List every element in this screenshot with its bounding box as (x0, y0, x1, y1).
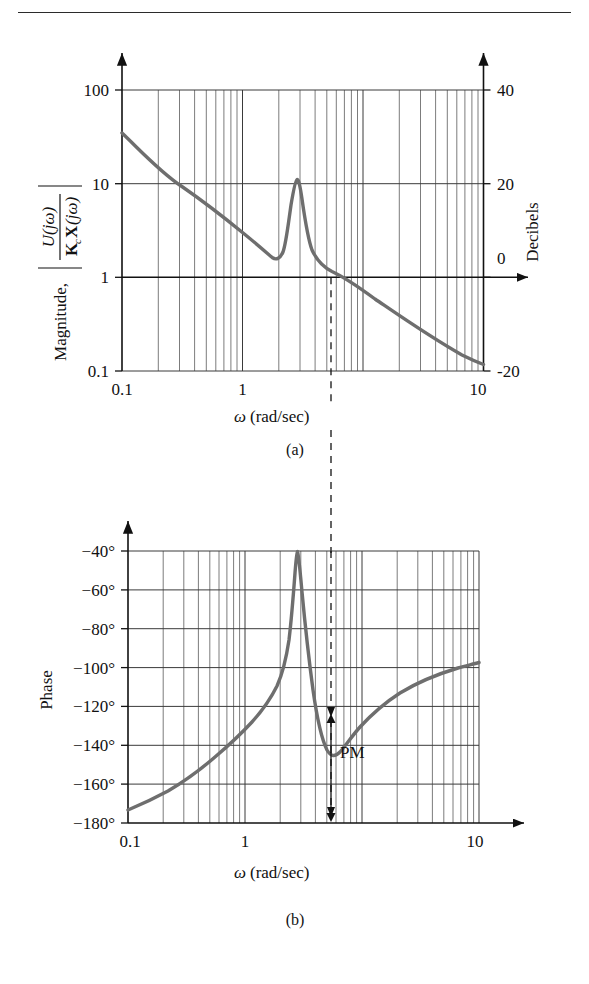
phase-ytick-minus100: −100° (73, 659, 115, 678)
phase-minor-gridlines (163, 551, 473, 823)
magnitude-axis-label-denominator: K c X (jω) (62, 197, 83, 256)
magnitude-plot: 100 10 1 0.1 40 20 0 -20 0.1 1 10 ω (rad… (38, 53, 542, 426)
phase-ytick-minus140: −140° (73, 736, 115, 755)
decibels-ytick-20: 20 (497, 175, 514, 194)
phase-xaxis-label: ω (rad/sec) (234, 863, 309, 882)
phase-axis-label: Phase (37, 670, 56, 710)
phase-ytick-minus80: −80° (82, 620, 115, 639)
decibels-ytick-minus20: -20 (497, 362, 520, 381)
magnitude-xtick-10: 10 (470, 380, 487, 399)
phase-xlabel-omega: ω (234, 863, 246, 882)
magnitude-xlabel-omega: ω (234, 407, 246, 426)
magnitude-axis-label-den-X: X (62, 225, 81, 238)
phase-ytick-minus180: −180° (73, 814, 115, 833)
phase-margin-arrow-up (327, 714, 336, 723)
phase-plot: PM −40° −60° −80° −100° −120° −140° −160… (37, 521, 524, 882)
phase-xtick-1: 1 (241, 832, 250, 851)
phase-margin-arrow-down (327, 813, 336, 822)
decibels-y-ticks (484, 90, 491, 371)
magnitude-decade-gridlines (243, 90, 364, 371)
figure-page: 100 10 1 0.1 40 20 0 -20 0.1 1 10 ω (rad… (0, 0, 589, 984)
magnitude-ytick-10: 10 (92, 175, 109, 194)
magnitude-axis-label-den-rest: (jω) (62, 197, 81, 225)
phase-ytick-minus120: −120° (73, 697, 115, 716)
phase-margin-label: PM (340, 743, 365, 762)
magnitude-axis-label-numerator: U(jω) (39, 207, 58, 248)
magnitude-minor-gridlines (158, 90, 478, 371)
caption-a: (a) (286, 441, 304, 459)
magnitude-ytick-100: 100 (84, 81, 110, 100)
magnitude-xaxis-label: ω (rad/sec) (234, 407, 309, 426)
magnitude-axis-label: Magnitude, U(jω) K c X (jω) (38, 186, 83, 361)
magnitude-axis-label-den-sub: c (71, 239, 83, 244)
phase-horizontal-gridlines (128, 551, 479, 784)
decibels-ytick-40: 40 (497, 81, 514, 100)
magnitude-horizontal-gridlines (122, 90, 484, 371)
phase-xlabel-units: (rad/sec) (250, 863, 309, 882)
phase-ytick-minus160: −160° (73, 775, 115, 794)
magnitude-ytick-1: 1 (101, 268, 110, 287)
decibels-axis-label: Decibels (523, 202, 542, 261)
magnitude-xlabel-units: (rad/sec) (250, 407, 309, 426)
magnitude-xtick-1: 1 (238, 380, 247, 399)
magnitude-xtick-0.1: 0.1 (111, 380, 132, 399)
phase-ytick-minus40: −40° (82, 542, 115, 561)
phase-xtick-0.1: 0.1 (119, 832, 140, 851)
bode-figure: 100 10 1 0.1 40 20 0 -20 0.1 1 10 ω (rad… (0, 0, 589, 984)
magnitude-ytick-0.1: 0.1 (88, 362, 109, 381)
caption-b: (b) (286, 911, 305, 929)
phase-y-ticks (121, 551, 128, 823)
phase-xtick-10: 10 (467, 832, 484, 851)
magnitude-curve (122, 133, 484, 365)
magnitude-axis-label-prefix: Magnitude, (51, 283, 70, 361)
decibels-ytick-0: 0 (497, 249, 506, 268)
phase-ytick-minus60: −60° (82, 581, 115, 600)
